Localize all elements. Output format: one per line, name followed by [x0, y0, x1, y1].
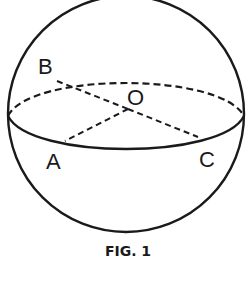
- label-b: B: [38, 54, 53, 79]
- sphere-diagram: B O A C FIG. 1: [0, 0, 251, 297]
- radius-oa-dashed: [65, 109, 128, 141]
- equator-front-solid: [8, 116, 244, 149]
- figure-caption: FIG. 1: [105, 243, 151, 259]
- label-c: C: [199, 147, 215, 172]
- sphere-outline: [8, 0, 244, 232]
- radius-oc-dashed: [128, 109, 198, 137]
- label-a: A: [46, 149, 61, 174]
- label-o: O: [127, 85, 144, 110]
